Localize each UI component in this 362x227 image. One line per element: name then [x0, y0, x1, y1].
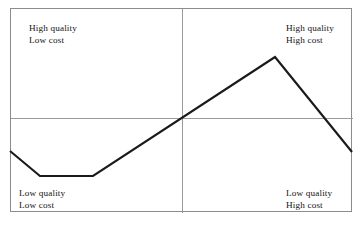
- quadrant-line-chart: High quality Low cost High quality High …: [0, 0, 362, 227]
- data-series-line: [10, 57, 352, 176]
- caption-fragment: [10, 216, 150, 224]
- curve-layer: [0, 0, 362, 227]
